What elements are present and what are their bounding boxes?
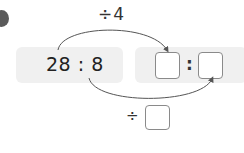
bottom-arrow-arc: [89, 78, 212, 98]
bottom-operator-label: ÷: [126, 107, 139, 125]
divisor-answer-box[interactable]: [145, 105, 170, 130]
top-arrow-arc: [58, 30, 167, 50]
arrow-layer: [0, 0, 244, 153]
